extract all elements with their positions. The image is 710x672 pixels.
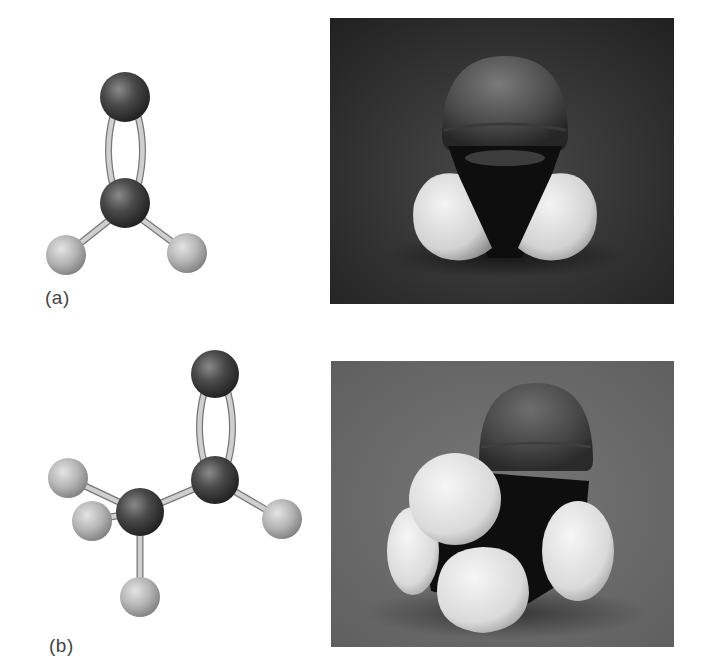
hydrogen-atom	[48, 458, 88, 498]
hydrogen-atom	[167, 233, 207, 273]
acetaldehyde-space-filling-photo	[331, 361, 674, 647]
hydrogen-atom	[72, 501, 112, 541]
oxygen-atom	[100, 72, 150, 122]
panel-label-b: (b)	[49, 635, 74, 657]
hydrogen-atom	[46, 235, 86, 275]
hydrogen-sphere	[409, 453, 501, 545]
formaldehyde-ball-and-stick-model	[0, 0, 330, 330]
hydrogen-atom	[120, 577, 160, 617]
double-bond	[109, 116, 143, 186]
hydrogen-atom	[262, 499, 302, 539]
panel-label-a: (a)	[45, 287, 70, 309]
double-bond	[200, 393, 233, 462]
carbon-atom	[191, 456, 239, 504]
hydrogen-sphere	[542, 501, 614, 601]
formaldehyde-space-filling-photo	[330, 18, 674, 304]
molecular-models-figure: (a)	[0, 0, 710, 672]
oxygen-atom	[191, 350, 239, 398]
carbon-atom	[100, 178, 150, 228]
hydrogen-sphere	[437, 547, 529, 633]
acetaldehyde-ball-and-stick-model	[0, 330, 330, 672]
carbon-atom	[116, 488, 164, 536]
